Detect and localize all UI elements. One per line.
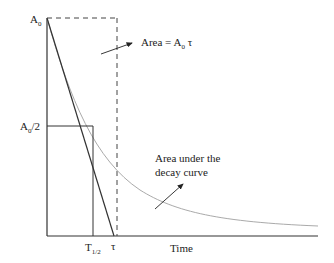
a0-label: A0 bbox=[30, 13, 42, 28]
curve-label-line2: decay curve bbox=[155, 166, 208, 178]
a0-half-label: A0/2 bbox=[20, 120, 40, 135]
tau-label: τ bbox=[111, 240, 116, 252]
area-label: Area = A0 τ bbox=[141, 36, 193, 51]
decay-diagram: A0 A0/2 Area = A0 τ Area under the decay… bbox=[0, 0, 334, 263]
area-arrow bbox=[101, 43, 132, 54]
curve-arrow bbox=[155, 184, 183, 209]
x-axis-label: Time bbox=[170, 242, 193, 254]
tangent-line bbox=[47, 18, 114, 236]
curve-label-line1: Area under the bbox=[155, 152, 220, 164]
t-half-label: T1/2 bbox=[85, 241, 101, 256]
